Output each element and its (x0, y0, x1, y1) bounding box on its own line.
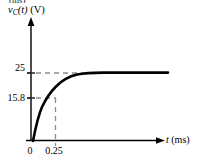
capacitor-voltage-curve (33, 73, 168, 141)
x-axis (26, 137, 165, 144)
rc-charging-curve-figure: (ms) vC(t) (V) 25 15.8 0 0.25 t (ms) (0, 0, 204, 155)
y-axis (28, 17, 35, 141)
plot-canvas (0, 0, 204, 155)
